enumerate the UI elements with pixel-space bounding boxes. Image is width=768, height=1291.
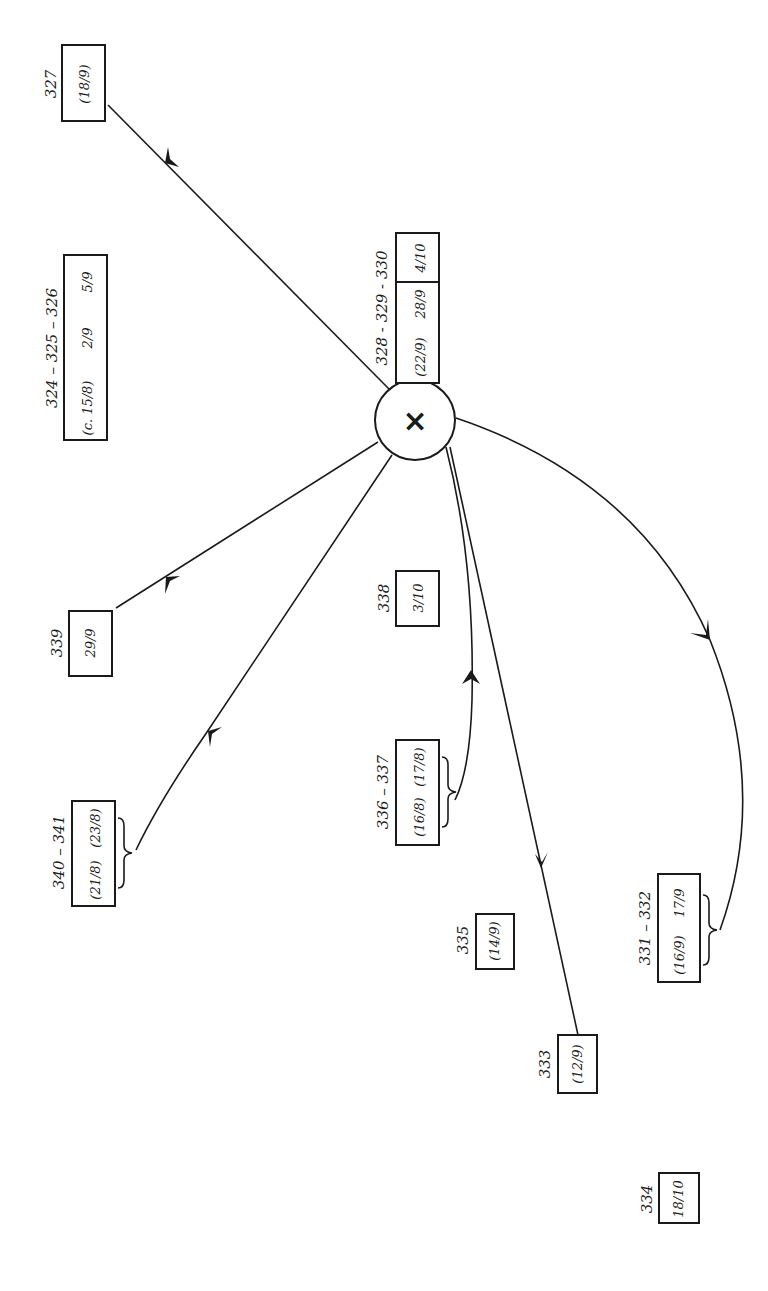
node-value: (c. 15/8) <box>80 381 95 436</box>
cross-icon: × <box>402 403 427 438</box>
arrowhead-icon <box>462 670 480 684</box>
node-label: 336 – 337 <box>374 754 392 829</box>
diagram-canvas: × 327 (18/9) 324 – 325 – 326 (c. 15/8) 2… <box>0 0 768 1291</box>
node-label: 331 – 332 <box>636 891 654 965</box>
brace-icon <box>703 895 717 965</box>
node-value: (18/9) <box>77 64 92 103</box>
node-value: (16/8) <box>412 797 427 836</box>
node-value: (14/9) <box>487 921 502 960</box>
node-335[interactable]: 335 (14/9) <box>454 914 514 969</box>
node-value: 4/10 <box>413 243 428 273</box>
hub-node[interactable]: × <box>375 380 455 460</box>
node-label: 324 – 325 – 326 <box>43 288 61 408</box>
arrowhead-icon <box>535 852 548 868</box>
node-334[interactable]: 334 18/10 <box>638 1173 699 1223</box>
node-340-341[interactable]: 340 – 341 (21/8) (23/8) <box>50 801 132 906</box>
brace-icon <box>118 818 132 888</box>
edge-hub-327 <box>108 105 390 390</box>
node-328-329-330[interactable]: 328 - 329 - 330 (22/9) 28/9 4/10 <box>373 233 439 383</box>
node-label: 328 - 329 - 330 <box>373 250 391 366</box>
edge-hub-339 <box>116 442 378 608</box>
node-label: 338 <box>375 584 393 613</box>
edge-336-hub <box>446 447 480 800</box>
node-label: 333 <box>536 1050 554 1079</box>
node-value: 17/9 <box>672 888 687 917</box>
node-336-337[interactable]: 336 – 337 (16/8) (17/8) <box>374 740 456 845</box>
node-331-332[interactable]: 331 – 332 (16/9) 17/9 <box>636 874 717 982</box>
node-value: 5/9 <box>80 272 95 293</box>
arrowhead-icon <box>690 619 710 640</box>
node-value: 2/9 <box>80 328 95 350</box>
node-324-325-326[interactable]: 324 – 325 – 326 (c. 15/8) 2/9 5/9 <box>43 255 107 440</box>
brace-icon <box>442 757 456 827</box>
node-label: 334 <box>638 1185 656 1214</box>
node-333[interactable]: 333 (12/9) <box>536 1035 597 1093</box>
node-value: (21/8) <box>88 860 103 899</box>
node-value: (22/9) <box>413 337 428 376</box>
node-label: 340 – 341 <box>50 815 68 889</box>
node-338[interactable]: 338 3/10 <box>375 571 439 626</box>
node-339[interactable]: 339 29/9 <box>48 611 112 676</box>
node-label: 339 <box>48 628 66 657</box>
node-value: (16/9) <box>672 935 687 974</box>
node-value: (12/9) <box>570 1044 585 1083</box>
arrowhead-icon <box>208 727 222 747</box>
node-value: 18/10 <box>671 1180 686 1217</box>
node-value: (23/8) <box>88 808 103 847</box>
arrowhead-icon <box>165 576 180 594</box>
node-label: 327 <box>42 69 60 98</box>
node-value: 3/10 <box>411 583 426 612</box>
node-value: (17/8) <box>412 747 427 786</box>
node-327[interactable]: 327 (18/9) <box>42 45 105 121</box>
node-value: 28/9 <box>413 289 428 319</box>
node-value: 29/9 <box>83 628 98 658</box>
node-label: 335 <box>454 926 472 955</box>
